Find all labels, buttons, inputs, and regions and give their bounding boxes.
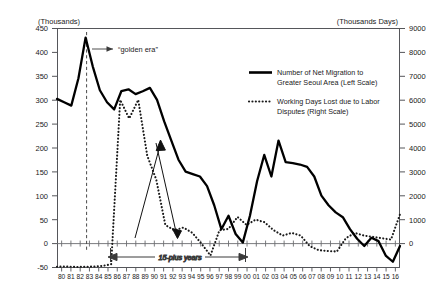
x-axis-label: 89	[141, 273, 149, 280]
x-axis-label: 01	[253, 273, 261, 280]
left-tick-label: 150	[35, 168, 48, 177]
right-tick-label: 4000	[409, 144, 426, 153]
right-tick-label: 6000	[409, 96, 426, 105]
x-axis-label: 16	[392, 273, 400, 280]
x-axis-label: 97	[216, 273, 224, 280]
x-axis-label: 03	[271, 273, 279, 280]
x-axis-label: 13	[364, 273, 372, 280]
x-axis-category-labels: 8081828384858687888990919293949596979899…	[58, 273, 399, 280]
x-axis-label: 96	[206, 273, 214, 280]
x-axis-label: 05	[290, 273, 298, 280]
right-axis-unit-label: (Thousands Days)	[337, 17, 399, 26]
legend-label-working-days-line2: Disputes (Right Scale)	[277, 107, 349, 116]
x-axis-label: 87	[123, 273, 131, 280]
left-tick-label: 450	[35, 24, 48, 33]
x-axis-label: 98	[225, 273, 233, 280]
x-axis-label: 99	[234, 273, 242, 280]
x-axis-label: 91	[160, 273, 168, 280]
x-axis-label: 88	[132, 273, 140, 280]
x-axis-label: 84	[95, 273, 103, 280]
x-axis-label: 02	[262, 273, 270, 280]
left-tick-label: 0	[44, 239, 48, 248]
x-axis-label: 90	[151, 273, 159, 280]
x-axis-label: 85	[104, 273, 112, 280]
x-axis-label: 07	[308, 273, 316, 280]
left-tick-label: 350	[35, 72, 48, 81]
legend-label-net-migration-line1: Number of Net Migration to	[277, 68, 363, 77]
x-axis-label: 93	[178, 273, 186, 280]
x-axis-label: 10	[336, 273, 344, 280]
x-axis-label: 83	[86, 273, 94, 280]
left-tick-label: 50	[40, 216, 48, 225]
chart-background	[0, 0, 445, 289]
left-tick-label: 200	[35, 144, 48, 153]
chart-figure: (Thousands) (Thousands Days) 450 400 350…	[0, 0, 445, 289]
x-axis-label: 12	[355, 273, 363, 280]
left-tick-label: 100	[35, 192, 48, 201]
x-axis-label: 04	[280, 273, 288, 280]
x-axis-label: 11	[346, 273, 353, 280]
right-tick-label: 3000	[409, 168, 426, 177]
x-axis-label: 80	[58, 273, 66, 280]
left-tick-label: 250	[35, 120, 48, 129]
x-axis-label: 82	[77, 273, 85, 280]
x-axis-label: 92	[169, 273, 177, 280]
left-tick-label: 400	[35, 48, 48, 57]
fifteen-plus-years-label: 15-plus years	[158, 253, 202, 262]
chart-svg: (Thousands) (Thousands Days) 450 400 350…	[0, 0, 445, 289]
right-tick-label: 8000	[409, 48, 426, 57]
left-tick-label: -50	[37, 263, 48, 272]
legend-label-net-migration-line2: Greater Seoul Area (Left Scale)	[277, 78, 377, 87]
x-axis-label: 14	[373, 273, 381, 280]
right-tick-label: 1000	[409, 216, 426, 225]
x-axis-label: 86	[114, 273, 122, 280]
legend-label-working-days-line1: Working Days Lost due to Labor	[277, 97, 380, 106]
x-axis-label: 00	[243, 273, 251, 280]
golden-era-label: “golden era”	[118, 45, 158, 54]
x-axis-label: 09	[327, 273, 335, 280]
x-axis-label: 94	[188, 273, 196, 280]
right-tick-label: 5000	[409, 120, 426, 129]
x-axis-label: 81	[67, 273, 75, 280]
right-tick-label: 7000	[409, 72, 426, 81]
x-axis-label: 08	[318, 273, 326, 280]
x-axis-label: 95	[197, 273, 205, 280]
x-axis-label: 15	[382, 273, 390, 280]
right-tick-label: 2000	[409, 192, 426, 201]
left-tick-label: 300	[35, 96, 48, 105]
right-tick-label: 9000	[409, 24, 426, 33]
right-tick-label: 0	[409, 239, 413, 248]
x-axis-label: 06	[299, 273, 307, 280]
